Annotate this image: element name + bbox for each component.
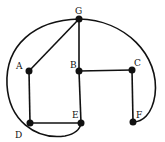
node-E xyxy=(78,120,85,127)
label-E: E xyxy=(72,110,79,120)
label-F: F xyxy=(136,110,142,120)
graph-diagram: G A B C D E F xyxy=(0,0,165,142)
node-D xyxy=(27,120,34,127)
label-D: D xyxy=(15,130,22,140)
label-C: C xyxy=(134,58,141,68)
label-A: A xyxy=(15,61,23,71)
edge-B-C xyxy=(79,70,132,71)
edge-C-F xyxy=(132,70,133,122)
label-B: B xyxy=(70,60,77,70)
edge-A-D xyxy=(29,71,30,123)
edge-B-E xyxy=(79,71,81,123)
node-A xyxy=(26,68,33,75)
label-G: G xyxy=(75,6,82,16)
node-G xyxy=(76,16,83,23)
edge-G-E-curve xyxy=(7,19,81,137)
